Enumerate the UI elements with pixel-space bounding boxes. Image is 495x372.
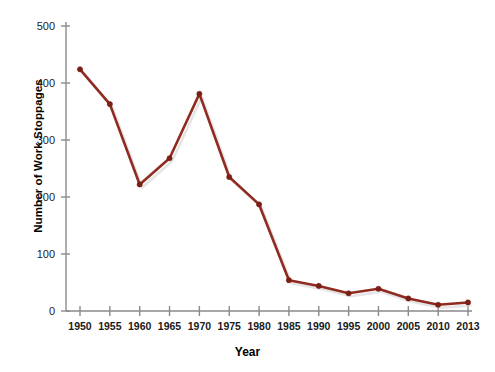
data-point-1955 — [107, 101, 112, 106]
data-point-1985 — [286, 278, 291, 283]
y-tick-label-400: 400 — [37, 77, 55, 89]
data-point-2005 — [406, 296, 411, 301]
y-tick-label-500: 500 — [37, 20, 55, 32]
data-point-1950 — [77, 67, 82, 72]
x-tick-label-1980: 1980 — [247, 320, 271, 332]
y-axis-ticks: 0100200300400500 — [37, 20, 70, 317]
data-point-2000 — [376, 286, 381, 291]
data-point-1995 — [346, 291, 351, 296]
y-tick-label-0: 0 — [49, 305, 55, 317]
x-axis-ticks: 1950195519601965197019751980198519901995… — [68, 306, 480, 332]
y-tick-label-300: 300 — [37, 134, 55, 146]
data-point-2010 — [436, 302, 441, 307]
data-point-1980 — [256, 202, 261, 207]
chart-figure: Number of Work Stoppages Year 0100200300… — [0, 0, 495, 372]
data-point-2013 — [465, 300, 470, 305]
x-tick-label-2005: 2005 — [397, 320, 421, 332]
data-point-1975 — [227, 174, 232, 179]
x-tick-label-1975: 1975 — [218, 320, 242, 332]
data-point-1960 — [137, 182, 142, 187]
x-tick-label-1955: 1955 — [98, 320, 122, 332]
x-tick-label-1950: 1950 — [68, 320, 92, 332]
x-tick-label-1985: 1985 — [277, 320, 301, 332]
x-tick-label-1960: 1960 — [128, 320, 152, 332]
data-point-1970 — [197, 91, 202, 96]
x-tick-label-1970: 1970 — [188, 320, 212, 332]
y-tick-label-200: 200 — [37, 191, 55, 203]
data-point-1965 — [167, 156, 172, 161]
series-markers — [77, 67, 470, 308]
x-tick-label-1965: 1965 — [158, 320, 182, 332]
data-point-1990 — [316, 283, 321, 288]
x-tick-label-2013: 2013 — [456, 320, 480, 332]
line-chart-plot: 0100200300400500 19501955196019651970197… — [0, 0, 495, 372]
x-tick-label-2010: 2010 — [426, 320, 450, 332]
series-shadow — [83, 72, 471, 307]
series-line-work-stoppages — [80, 69, 468, 304]
x-tick-label-1990: 1990 — [307, 320, 331, 332]
x-tick-label-2000: 2000 — [367, 320, 391, 332]
x-tick-label-1995: 1995 — [337, 320, 361, 332]
y-tick-label-100: 100 — [37, 248, 55, 260]
